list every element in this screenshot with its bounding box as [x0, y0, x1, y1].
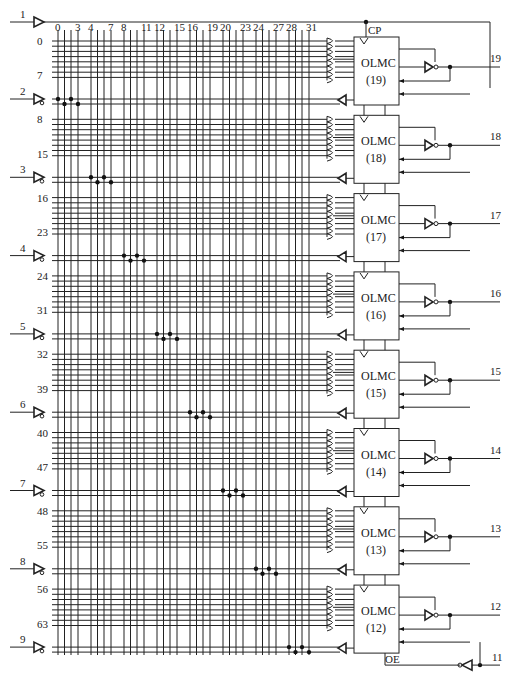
input-buffer-icon: [34, 251, 44, 261]
inverter-bubble-icon: [434, 300, 438, 304]
junction-dot: [89, 175, 93, 179]
junction-dot: [69, 97, 73, 101]
olmc-index: (18): [366, 151, 386, 165]
row-label-start: 24: [37, 270, 49, 282]
junction-dot: [62, 102, 66, 106]
input-pin-label: 9: [20, 633, 26, 645]
row-label-start: 8: [37, 113, 43, 125]
junction-dot: [102, 175, 106, 179]
arrow-icon: [399, 314, 404, 318]
input-pin-label: 1: [20, 8, 26, 20]
clock-triangle-icon: [360, 38, 368, 44]
column-label: 24: [253, 21, 265, 33]
input-pin-label: 5: [20, 320, 26, 332]
olmc-index: (17): [366, 230, 386, 244]
junction-dot: [260, 572, 264, 576]
olmc-name: OLMC: [361, 604, 396, 618]
input-buffer-icon: [34, 407, 44, 417]
arrow-icon: [399, 392, 404, 396]
junction-dot: [168, 332, 172, 336]
row-label-end: 55: [37, 539, 49, 551]
clock-triangle-icon: [360, 351, 368, 357]
column-label: 8: [121, 21, 127, 33]
junction-dot: [221, 488, 225, 492]
or-gate: [327, 430, 333, 475]
row-label-start: 40: [37, 427, 49, 439]
junction-dot: [254, 567, 258, 571]
output-pin-label: 12: [490, 600, 501, 612]
olmc-name: OLMC: [361, 448, 396, 462]
arrow-icon: [399, 627, 404, 631]
output-pin-label: 18: [490, 130, 502, 142]
column-label: 27: [273, 21, 285, 33]
output-pin-label: 16: [490, 287, 502, 299]
junction-dot: [161, 337, 165, 341]
olmc-block: [354, 115, 399, 183]
output-buffer-icon: [425, 219, 433, 229]
junction-dot: [307, 650, 311, 654]
row-label-start: 48: [37, 505, 49, 517]
oe-label: OE: [385, 653, 400, 665]
arrow-icon: [399, 549, 404, 553]
junction-dot: [267, 567, 271, 571]
junction-dot: [287, 645, 291, 649]
olmc-block: [354, 585, 399, 653]
inverter-bubble-icon: [40, 493, 44, 497]
clock-triangle-icon: [360, 586, 368, 592]
or-gate-body: [327, 430, 333, 475]
or-gate: [327, 38, 333, 83]
row-label-start: 32: [37, 348, 48, 360]
gal16v8-logic-diagram: 0347811121516192023242728310719281518316…: [0, 0, 520, 682]
olmc-name: OLMC: [361, 291, 396, 305]
olmc-index: (14): [366, 465, 386, 479]
or-gate: [327, 586, 333, 631]
input-pin-label: 2: [20, 85, 26, 97]
junction-dot: [175, 337, 179, 341]
junction-dot: [227, 493, 231, 497]
column-label: 23: [240, 21, 252, 33]
input-pin-label: 3: [20, 163, 26, 175]
output-buffer-icon: [425, 532, 433, 542]
olmc-name: OLMC: [361, 213, 396, 227]
column-label: 0: [55, 21, 61, 33]
column-label: 3: [75, 21, 81, 33]
column-label: 12: [154, 21, 165, 33]
inverter-bubble-icon: [40, 571, 44, 575]
clock-triangle-icon: [360, 430, 368, 436]
input-pin-label: 6: [20, 398, 26, 410]
output-buffer-icon: [425, 297, 433, 307]
column-label: 20: [220, 21, 232, 33]
row-label-end: 15: [37, 148, 49, 160]
or-gate: [327, 273, 333, 318]
column-label: 11: [141, 21, 152, 33]
row-label-end: 47: [37, 461, 49, 473]
junction-dot: [56, 97, 60, 101]
output-pin-label: 15: [490, 365, 502, 377]
arrow-icon: [399, 471, 404, 475]
arrow-icon: [399, 79, 404, 83]
column-label: 15: [174, 21, 186, 33]
column-label: 4: [88, 21, 94, 33]
inverter-bubble-icon: [40, 101, 44, 105]
inverter-bubble-icon: [40, 649, 44, 653]
clock-buffer-icon: [34, 17, 44, 27]
row-label-end: 63: [37, 618, 49, 630]
olmc-name: OLMC: [361, 134, 396, 148]
olmc-block: [354, 507, 399, 575]
input-pin-label: 4: [20, 242, 26, 254]
row-label-start: 56: [37, 583, 49, 595]
row-label-end: 7: [37, 69, 43, 81]
inverter-bubble-icon: [40, 336, 44, 340]
row-label-end: 39: [37, 383, 49, 395]
inverter-bubble-icon: [434, 535, 438, 539]
row-label-start: 16: [37, 192, 49, 204]
olmc-index: (12): [366, 621, 386, 635]
olmc-block: [354, 194, 399, 262]
column-label: 7: [108, 21, 114, 33]
inverter-bubble-icon: [434, 143, 438, 147]
input-buffer-icon: [34, 564, 44, 574]
junction-dot: [122, 253, 126, 257]
junction-dot: [201, 410, 205, 414]
junction-dot: [194, 415, 198, 419]
arrow-icon: [399, 236, 404, 240]
